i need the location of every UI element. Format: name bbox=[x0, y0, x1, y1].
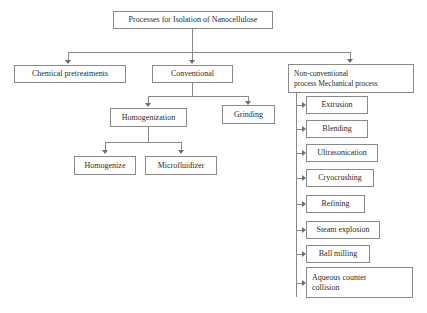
arrowhead-chemical bbox=[65, 60, 71, 64]
connector-title-stem bbox=[192, 28, 193, 52]
node-extrusion: Extrusion bbox=[306, 96, 368, 114]
connector-main-bus bbox=[68, 52, 351, 53]
node-homogenization: Homogenization bbox=[110, 108, 187, 127]
arrowhead-nonconventional bbox=[347, 59, 353, 63]
node-steam-explosion: Steam explosion bbox=[306, 221, 380, 239]
node-ball-milling: Ball milling bbox=[306, 245, 370, 263]
node-ultrasonication: Ultrasonication bbox=[306, 144, 378, 162]
node-non-conventional: Non-conventional process Mechanical proc… bbox=[288, 64, 414, 93]
node-grinding: Grinding bbox=[222, 105, 275, 124]
connector-conventional-stem bbox=[192, 83, 193, 96]
connector-homogenization-bus bbox=[105, 142, 181, 143]
arrowhead-conventional bbox=[189, 60, 195, 64]
node-conventional: Conventional bbox=[152, 65, 233, 83]
arrowhead-homogenization bbox=[145, 103, 151, 107]
node-aqueous-counter-collision: Aqueous counter collision bbox=[306, 267, 413, 298]
node-chemical-pretreatments: Chemical pretreatments bbox=[14, 65, 126, 83]
connector-homogenization-stem bbox=[148, 127, 149, 142]
connector-conventional-bus bbox=[148, 96, 248, 97]
flowchart-canvas: Processes for Isolation of Nanocellulose… bbox=[0, 0, 427, 313]
node-title: Processes for Isolation of Nanocellulose bbox=[113, 11, 273, 29]
arrowhead-microfluidizer bbox=[178, 150, 184, 154]
node-cryocrushing: Cryocrushing bbox=[306, 169, 374, 187]
node-microfluidizer: Microfluidizer bbox=[145, 156, 217, 175]
node-blending: Blending bbox=[306, 120, 368, 138]
arrowhead-homogenize bbox=[102, 150, 108, 154]
node-homogenize: Homogenize bbox=[74, 156, 136, 175]
node-refining: Refining bbox=[306, 195, 365, 213]
connector-mechanical-spine bbox=[296, 92, 297, 297]
